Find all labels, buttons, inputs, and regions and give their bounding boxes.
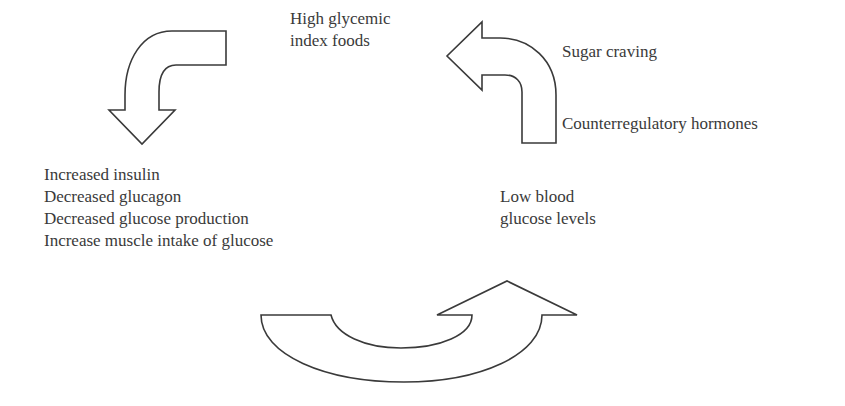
label-line: index foods [290,30,391,52]
label-line: Decreased glucose production [44,208,273,230]
counterregulatory-hormones-label: Counterregulatory hormones [562,113,758,135]
curved-arrow-left-icon [447,22,556,143]
high-glycemic-foods-label: High glycemic index foods [290,8,391,52]
label-line: Sugar craving [562,41,657,63]
label-line: Decreased glucagon [44,186,273,208]
sugar-craving-label: Sugar craving [562,41,657,63]
glycemic-cycle-diagram: High glycemic index foods Sugar craving … [0,0,845,406]
insulin-response-label: Increased insulin Decreased glucagon Dec… [44,164,273,252]
curved-arrow-down-icon [109,31,226,144]
label-line: Counterregulatory hormones [562,113,758,135]
label-line: Increased insulin [44,164,273,186]
label-line: Low blood [500,186,596,208]
label-line: High glycemic [290,8,391,30]
label-line: glucose levels [500,208,596,230]
label-line: Increase muscle intake of glucose [44,230,273,252]
u-turn-arrow-up-icon [261,281,577,382]
low-blood-glucose-label: Low blood glucose levels [500,186,596,230]
